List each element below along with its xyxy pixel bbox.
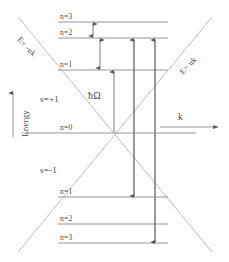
momentum-axis-label: k [178,112,183,122]
spin-label-upper: s=+1 [40,94,59,104]
spin-label-lower: s=-1 [40,165,57,175]
level-label-lower-n2: n=2 [60,214,72,223]
transition-energy-label: ħΩ [88,90,101,101]
level-label-upper-n1: n=1 [60,60,72,69]
level-label-lower-n3: n=3 [60,233,72,242]
level-label-upper-n3: n=3 [60,12,72,21]
level-label-n0: n=0 [60,123,72,132]
energy-axis-label: Energy [20,110,30,137]
level-label-lower-n1: n=1 [60,187,72,196]
diagram-canvas [0,0,229,262]
level-label-upper-n2: n=2 [60,28,72,37]
energy-level-diagram: n=3 n=2 n=1 n=0 n=1 n=2 n=3 s=+1 s=-1 E=… [0,0,229,262]
